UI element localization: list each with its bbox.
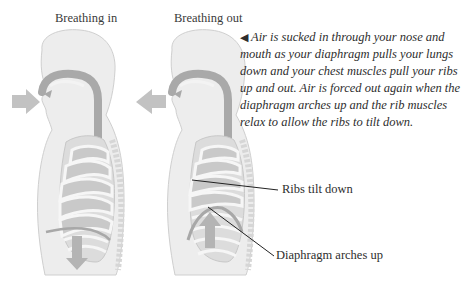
figure-breathing-in	[12, 30, 124, 275]
caption: ◀Air is sucked in through your nose and …	[240, 29, 465, 131]
label-ribs-tilt-down: Ribs tilt down	[282, 182, 353, 197]
label-diaphragm-arches-up: Diaphragm arches up	[276, 248, 383, 263]
left-triangle-icon: ◀	[240, 31, 248, 43]
caption-text: Air is sucked in through your nose and m…	[240, 30, 460, 129]
